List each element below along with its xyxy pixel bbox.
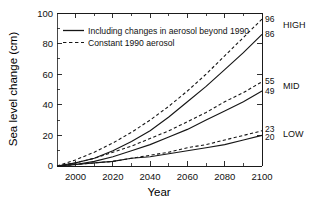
x-tick-labels: 2000 2020 2040 2060 2080 2100 (65, 171, 273, 182)
scenario-label-high: HIGH (283, 20, 306, 30)
y-tick-label-0: 0 (48, 160, 53, 171)
x-tick-label-2040: 2040 (140, 171, 161, 182)
right-axis-ticks (257, 13, 262, 166)
legend-label-solid: Including changes in aerosol beyond 1990 (88, 26, 249, 36)
curve-low-solid (57, 135, 262, 166)
scenario-label-low: LOW (283, 129, 304, 139)
y-axis-title: Sea level change (cm) (7, 32, 19, 147)
endpoint-label-mid-solid: 49 (265, 86, 275, 96)
y-tick-label-20: 20 (42, 130, 53, 141)
x-axis-title: Year (147, 186, 170, 198)
y-tick-label-40: 40 (42, 99, 53, 110)
scenario-labels: HIGH MID LOW (283, 20, 306, 139)
endpoint-label-high-dashed: 96 (265, 14, 275, 24)
scenario-label-mid: MID (283, 81, 300, 91)
legend: Including changes in aerosol beyond 1990… (63, 26, 249, 48)
curve-high-solid (57, 34, 262, 166)
y-axis-minor-ticks (57, 28, 60, 150)
endpoint-label-mid-dashed: 55 (265, 76, 275, 86)
top-axis-ticks (76, 13, 244, 18)
x-tick-label-2000: 2000 (65, 171, 86, 182)
y-tick-label-100: 100 (37, 8, 53, 19)
chart-canvas: 0 20 40 60 80 100 2000 2020 2040 2060 20… (0, 0, 322, 223)
curve-low-dashed (57, 131, 262, 166)
x-tick-label-2080: 2080 (214, 171, 235, 182)
y-tick-label-60: 60 (42, 69, 53, 80)
legend-label-dashed: Constant 1990 aerosol (88, 38, 175, 48)
endpoint-labels: 96 86 55 49 23 20 (265, 14, 275, 142)
x-tick-label-2060: 2060 (177, 171, 198, 182)
x-tick-label-2020: 2020 (102, 171, 123, 182)
y-tick-labels: 0 20 40 60 80 100 (37, 8, 53, 172)
endpoint-label-low-solid: 20 (265, 132, 275, 142)
y-tick-label-80: 80 (42, 38, 53, 49)
sea-level-projection-figure: 0 20 40 60 80 100 2000 2020 2040 2060 20… (0, 0, 322, 223)
x-tick-label-2100: 2100 (251, 171, 272, 182)
endpoint-label-high-solid: 86 (265, 29, 275, 39)
